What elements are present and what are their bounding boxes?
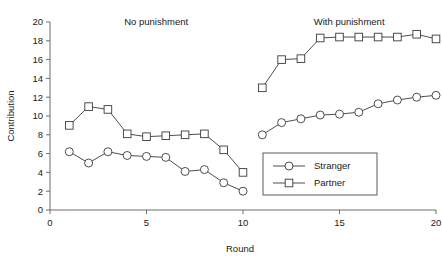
data-point-marker [413,30,421,38]
data-point-marker [181,167,189,175]
phase-title-label: With punishment [314,16,385,27]
y-tick-label: 16 [32,54,43,65]
data-point-marker [297,55,305,63]
data-point-marker [374,33,382,41]
data-series-layer [65,30,440,195]
data-point-marker [432,35,440,43]
y-tick-label: 2 [38,186,43,197]
legend-label-stranger: Stranger [314,160,350,171]
data-point-marker [143,133,151,141]
data-point-marker [259,84,267,92]
x-axis-title: Round [226,243,254,254]
y-tick-label: 8 [38,129,43,140]
data-point-marker [104,148,112,156]
data-point-marker [162,132,170,140]
circle-marker-icon [285,162,293,170]
y-tick-label: 12 [32,92,43,103]
legend-label-partner: Partner [314,177,345,188]
contribution-by-round-line-chart: No punishmentWith punishment 02468101214… [0,0,442,259]
data-point-marker [336,110,344,118]
data-point-marker [355,33,363,41]
series-line-segment [69,152,243,191]
y-tick-label: 18 [32,35,43,46]
x-tick-label: 15 [334,217,345,228]
data-point-marker [374,100,382,108]
data-point-marker [181,131,189,139]
data-point-marker [239,187,247,195]
data-point-marker [316,111,324,119]
square-marker-icon [285,179,293,187]
data-point-marker [297,115,305,123]
data-point-marker [278,56,286,64]
data-point-marker [258,131,266,139]
y-tick-label: 4 [38,167,43,178]
data-point-marker [123,130,131,138]
data-point-marker [201,130,209,138]
data-point-marker [413,93,421,101]
data-point-marker [123,151,131,159]
y-axis-ticks: 02468101214161820 [32,16,50,215]
y-tick-label: 20 [32,16,43,27]
y-tick-label: 14 [32,73,43,84]
data-point-marker [239,169,247,177]
data-point-marker [85,103,93,111]
phase-annotations: No punishmentWith punishment [124,16,385,27]
data-point-marker [278,119,286,127]
data-point-marker [220,179,228,187]
phase-title-label: No punishment [124,16,188,27]
series-line-segment [262,95,436,134]
data-point-marker [432,91,440,99]
data-point-marker [65,148,73,156]
data-point-marker [393,96,401,104]
y-axis-title: Contribution [5,90,16,141]
series-line-segment [262,34,436,88]
x-tick-label: 20 [431,217,442,228]
chart-figure: No punishmentWith punishment 02468101214… [0,0,442,259]
data-point-marker [200,166,208,174]
data-point-marker [336,33,344,41]
y-tick-label: 10 [32,110,43,121]
data-point-marker [355,108,363,116]
data-point-marker [66,122,74,130]
y-tick-label: 0 [38,204,43,215]
data-point-marker [85,159,93,167]
x-tick-label: 0 [47,217,52,228]
data-point-marker [162,153,170,161]
x-tick-label: 5 [144,217,149,228]
legend-box [263,153,377,195]
series-line-segment [69,107,243,173]
x-axis-ticks: 05101520 [47,210,441,228]
series-stranger [65,91,440,195]
data-point-marker [316,34,324,42]
data-point-marker [394,33,402,41]
x-tick-label: 10 [238,217,249,228]
data-point-marker [104,106,112,114]
data-point-marker [143,152,151,160]
y-tick-label: 6 [38,148,43,159]
data-point-marker [220,146,228,154]
chart-legend: StrangerPartner [263,153,377,195]
